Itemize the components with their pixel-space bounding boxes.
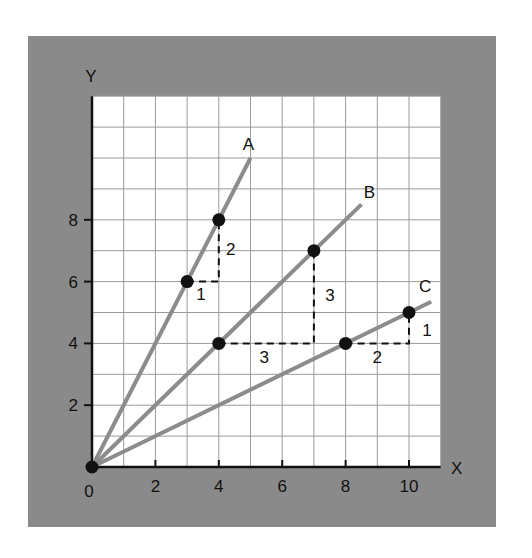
x-tick-label: 8: [341, 477, 350, 496]
data-point: [212, 213, 225, 226]
origin-point: [86, 461, 99, 474]
y-axis-label: Y: [85, 67, 96, 86]
run-label-B: 3: [260, 348, 269, 367]
run-label-C: 2: [373, 348, 382, 367]
x-tick-label: 2: [151, 477, 160, 496]
y-tick-label: 6: [69, 273, 78, 292]
x-tick-label: 10: [400, 477, 419, 496]
data-point: [339, 337, 352, 350]
rise-label-A: 2: [226, 240, 235, 259]
y-tick-label: 2: [69, 396, 78, 415]
origin-label: 0: [84, 482, 93, 501]
data-point: [403, 306, 416, 319]
x-tick-label: 6: [277, 477, 286, 496]
x-axis-label: X: [451, 459, 462, 478]
x-tick-label: 4: [214, 477, 223, 496]
rise-label-B: 3: [325, 286, 334, 305]
y-tick-label: 8: [69, 211, 78, 230]
run-label-A: 1: [196, 285, 205, 304]
line-label-B: B: [364, 183, 375, 202]
slope-chart: 24681024680XY A21B33C12: [0, 0, 532, 558]
rise-label-C: 1: [422, 321, 431, 340]
line-label-A: A: [243, 135, 255, 154]
data-point: [181, 275, 194, 288]
data-point: [307, 244, 320, 257]
y-tick-label: 4: [69, 334, 78, 353]
data-point: [212, 337, 225, 350]
line-label-C: C: [419, 277, 431, 296]
